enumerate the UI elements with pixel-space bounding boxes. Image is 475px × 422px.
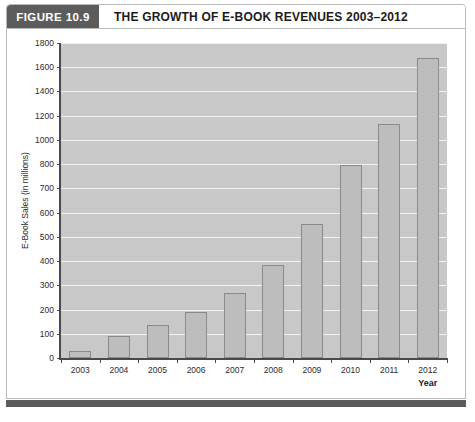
gridline xyxy=(61,91,447,92)
y-tick-label: 400 xyxy=(40,256,54,266)
bar xyxy=(69,351,91,358)
x-tick-mark xyxy=(293,358,294,363)
y-tick-mark xyxy=(57,43,61,44)
y-tick-mark xyxy=(57,334,61,335)
chart-area: E-Book Sales (in millions) 0100200300400… xyxy=(7,29,465,397)
gridline xyxy=(61,67,447,68)
figure-header: FIGURE 10.9 THE GROWTH OF E-BOOK REVENUE… xyxy=(6,4,466,29)
y-axis-title: E-Book Sales (in millions) xyxy=(19,43,31,358)
figure-number-badge: FIGURE 10.9 xyxy=(7,5,99,28)
y-tick-label: 800 xyxy=(40,159,54,169)
x-tick-label: 2011 xyxy=(380,365,398,375)
bar xyxy=(340,165,362,358)
y-tick-label: 500 xyxy=(40,232,54,242)
bar xyxy=(224,293,246,358)
x-tick-mark xyxy=(447,358,448,363)
x-tick-mark xyxy=(254,358,255,363)
y-tick-mark xyxy=(57,164,61,165)
gridline xyxy=(61,43,447,44)
x-tick-mark xyxy=(177,358,178,363)
x-tick-mark xyxy=(138,358,139,363)
y-tick-mark xyxy=(57,310,61,311)
bar xyxy=(185,312,207,358)
x-tick-label: 2003 xyxy=(71,365,90,375)
bar xyxy=(108,336,130,358)
figure-container: FIGURE 10.9 THE GROWTH OF E-BOOK REVENUE… xyxy=(0,0,475,422)
y-tick-mark xyxy=(57,140,61,141)
y-tick-label: 1400 xyxy=(35,86,54,96)
x-tick-label: 2010 xyxy=(341,365,360,375)
y-tick-mark xyxy=(57,116,61,117)
x-tick-label: 2012 xyxy=(418,365,437,375)
y-tick-label: 1000 xyxy=(35,135,54,145)
y-tick-mark xyxy=(57,261,61,262)
y-tick-mark xyxy=(57,91,61,92)
y-tick-mark xyxy=(57,237,61,238)
figure-bottom-rule xyxy=(6,400,466,407)
y-tick-label: 200 xyxy=(40,305,54,315)
x-tick-mark xyxy=(215,358,216,363)
figure-title-container: THE GROWTH OF E-BOOK REVENUES 2003–2012 xyxy=(99,5,465,28)
bar xyxy=(262,265,284,358)
y-tick-label: 0 xyxy=(49,353,54,363)
y-tick-label: 1200 xyxy=(35,111,54,121)
x-tick-label: 2004 xyxy=(109,365,128,375)
x-tick-label: 2008 xyxy=(264,365,283,375)
x-tick-label: 2005 xyxy=(148,365,167,375)
bar xyxy=(301,224,323,358)
gridline xyxy=(61,116,447,117)
x-tick-label: 2006 xyxy=(187,365,206,375)
y-tick-mark xyxy=(57,285,61,286)
x-tick-mark xyxy=(370,358,371,363)
bar xyxy=(417,58,439,358)
x-tick-label: 2009 xyxy=(302,365,321,375)
y-tick-label: 600 xyxy=(40,208,54,218)
x-tick-mark xyxy=(331,358,332,363)
plot-region: 0100200300400500600700800100012001400160… xyxy=(59,43,447,360)
figure-title: THE GROWTH OF E-BOOK REVENUES 2003–2012 xyxy=(114,10,408,24)
y-tick-mark xyxy=(57,67,61,68)
y-tick-label: 300 xyxy=(40,280,54,290)
x-tick-label: 2007 xyxy=(225,365,244,375)
figure-caption xyxy=(8,410,468,422)
y-tick-label: 1800 xyxy=(35,38,54,48)
x-tick-mark xyxy=(61,358,62,363)
bar xyxy=(378,124,400,358)
x-axis-title: Year xyxy=(418,378,437,388)
x-tick-mark xyxy=(408,358,409,363)
y-tick-label: 1600 xyxy=(35,62,54,72)
bar xyxy=(147,325,169,358)
chart-card: E-Book Sales (in millions) 0100200300400… xyxy=(6,29,466,399)
y-tick-mark xyxy=(57,188,61,189)
y-tick-label: 700 xyxy=(40,183,54,193)
y-tick-label: 100 xyxy=(40,329,54,339)
y-tick-mark xyxy=(57,213,61,214)
x-tick-mark xyxy=(100,358,101,363)
